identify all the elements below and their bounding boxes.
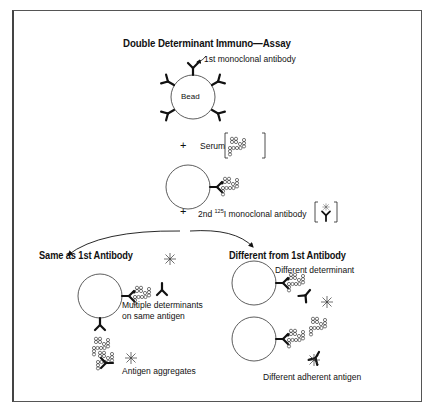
bead-with-antigen bbox=[166, 165, 239, 209]
right-branch-art bbox=[232, 261, 333, 366]
annotation-same-antigen: on same antigen bbox=[122, 312, 185, 321]
left-branch-heading: Same as 1st Antibody bbox=[39, 250, 133, 261]
second-antibody-suffix: I monoclonal antibody bbox=[224, 209, 307, 219]
first-antibody-label: 1st monoclonal antibody bbox=[204, 55, 296, 64]
second-antibody-prefix: 2nd bbox=[198, 209, 215, 219]
plus-sign: + bbox=[180, 140, 186, 151]
serum-label: Serum bbox=[200, 142, 225, 151]
serum-bracket bbox=[225, 133, 265, 158]
diagram-title: Double Determinant Immuno—Assay bbox=[123, 38, 291, 49]
bead-with-antibodies bbox=[161, 56, 225, 120]
annotation-different-determinant: Different determinant bbox=[275, 266, 354, 275]
right-branch-heading: Different from 1st Antibody bbox=[229, 250, 346, 261]
plus-sign: + bbox=[180, 206, 186, 217]
annotation-multiple-determinants: Multiple determinants bbox=[122, 301, 203, 310]
isotope-superscript: 125 bbox=[215, 208, 224, 214]
annotation-different-adherent-antigen: Different adherent antigen bbox=[263, 373, 361, 382]
labelled-antibody-bracket bbox=[315, 202, 337, 222]
arrow-right bbox=[190, 231, 253, 247]
annotation-antigen-aggregates: Antigen aggregates bbox=[122, 367, 196, 376]
bead-label: Bead bbox=[181, 93, 200, 101]
second-antibody-label: 2nd 125I monoclonal antibody bbox=[198, 209, 306, 219]
